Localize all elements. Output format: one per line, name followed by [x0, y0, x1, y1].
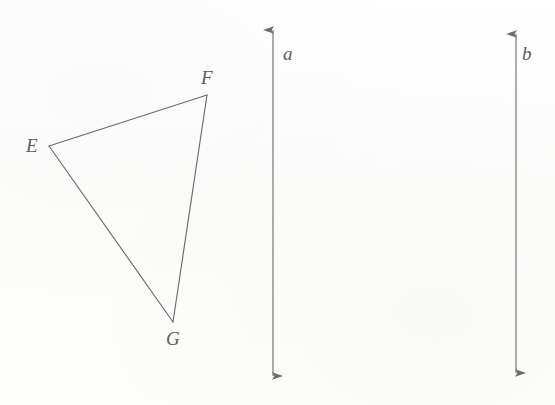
edge-FG	[173, 95, 207, 322]
geometry-canvas	[0, 0, 555, 405]
geometry-figure: E F G a b	[0, 0, 555, 405]
vertex-label-G: G	[166, 329, 180, 348]
line-label-b: b	[522, 44, 532, 63]
edge-EF	[49, 95, 207, 146]
vertex-label-F: F	[201, 68, 213, 87]
vertex-label-E: E	[26, 136, 38, 155]
line-label-a: a	[283, 44, 293, 63]
triangle-EFG	[49, 95, 207, 322]
edge-GE	[49, 146, 173, 322]
